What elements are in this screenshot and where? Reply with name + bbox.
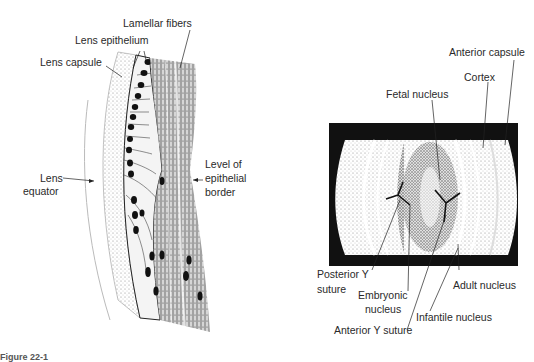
label-posterior-y-suture-line2: suture [317, 283, 346, 295]
label-epithelial-border-line2: epithelial [205, 172, 246, 184]
label-epithelial-border-line1: Level of [205, 158, 242, 170]
label-lens-epithelium: Lens epithelium [75, 34, 149, 46]
label-lens-equator-line1: Lens [40, 172, 63, 184]
label-lens-equator-line2: equator [23, 185, 59, 197]
label-lamellar-fibers: Lamellar fibers [123, 17, 192, 29]
figure-caption: Figure 22-1 [0, 352, 48, 362]
label-cortex: Cortex [464, 71, 495, 83]
label-embryonic-nucleus-line1: Embryonic [358, 289, 408, 301]
label-posterior-y-suture-line1: Posterior Y [317, 268, 369, 280]
label-epithelial-border-line3: border [205, 186, 235, 198]
label-anterior-y-suture: Anterior Y suture [334, 324, 412, 336]
label-embryonic-nucleus-line2: nucleus [365, 303, 401, 315]
label-adult-nucleus: Adult nucleus [453, 279, 516, 291]
label-anterior-capsule: Anterior capsule [449, 46, 525, 58]
label-infantile-nucleus: Infantile nucleus [416, 311, 492, 323]
label-lens-capsule: Lens capsule [40, 56, 102, 68]
label-fetal-nucleus: Fetal nucleus [386, 88, 448, 100]
